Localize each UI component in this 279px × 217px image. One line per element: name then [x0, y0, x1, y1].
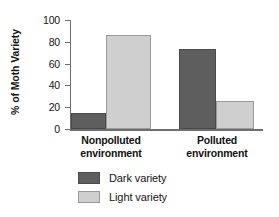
y-axis-title: % of Moth Variety: [9, 13, 21, 131]
x-axis-line: [70, 129, 263, 131]
x-category-label-polluted-line1: Polluted: [197, 134, 237, 146]
legend-item-dark-variety: Dark variety: [78, 170, 167, 186]
y-tick-label-100: 100: [30, 14, 60, 26]
y-tick-label-0: 0: [30, 123, 60, 135]
moth-variety-bar-chart: % of Moth Variety 100 80 60 40 20 0 Nonp…: [0, 0, 279, 217]
plot-area: [71, 20, 263, 129]
legend-item-light-variety: Light variety: [78, 189, 167, 205]
bar-polluted-dark-variety: [179, 49, 216, 129]
bar-nonpolluted-dark-variety: [71, 113, 106, 129]
x-category-label-polluted: Polluted environment: [168, 134, 266, 159]
x-category-label-polluted-line2: environment: [168, 147, 266, 160]
x-category-label-nonpolluted: Nonpolluted environment: [62, 134, 160, 159]
chart-legend: Dark variety Light variety: [78, 170, 167, 208]
y-tick-label-40: 40: [30, 79, 60, 91]
y-tick-label-60: 60: [30, 58, 60, 70]
x-category-label-nonpolluted-line2: environment: [62, 147, 160, 160]
x-category-label-nonpolluted-line1: Nonpolluted: [81, 134, 141, 146]
legend-label-dark-variety: Dark variety: [109, 172, 166, 184]
y-tick-label-20: 20: [30, 101, 60, 113]
legend-swatch-light-variety: [78, 191, 100, 203]
y-tick-label-80: 80: [30, 36, 60, 48]
bar-nonpolluted-light-variety: [106, 35, 151, 129]
legend-swatch-dark-variety: [78, 172, 100, 184]
legend-label-light-variety: Light variety: [109, 191, 167, 203]
bar-polluted-light-variety: [216, 101, 254, 129]
